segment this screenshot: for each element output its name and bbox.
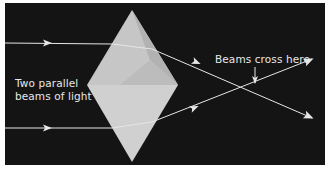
bottom-margin (0, 165, 325, 172)
incoming-beams-label: Two parallel beams of light (15, 77, 92, 103)
incoming-beams-label-line2: beams of light (15, 90, 92, 103)
crossing-label: Beams cross here (215, 53, 310, 66)
diagram-canvas: Two parallel beams of light Beams cross … (0, 0, 325, 172)
incoming-beams-label-line1: Two parallel (15, 77, 92, 90)
